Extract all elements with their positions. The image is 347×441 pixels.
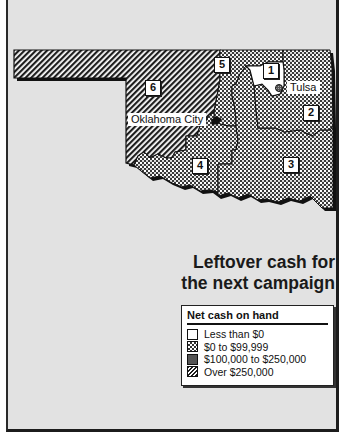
legend-item-100000-to-250000: $100,000 to $250,000 xyxy=(187,353,328,366)
legend-item-label: Over $250,000 xyxy=(204,366,273,378)
legend-item-label: $0 to $99,999 xyxy=(204,341,268,353)
map-title-line-1: Leftover cash for xyxy=(181,252,335,273)
hatch-swatch-icon xyxy=(187,366,198,377)
legend-title: Net cash on hand xyxy=(187,309,328,325)
legend-item-0-to-99999: $0 to $99,999 xyxy=(187,341,328,354)
map-title-line-2: the next campaign xyxy=(181,273,335,294)
tulsa-city-marker xyxy=(276,85,283,92)
district-label-4: 4 xyxy=(192,158,208,174)
white-swatch-icon xyxy=(187,329,198,340)
legend: Net cash on hand Less than $0 $0 to $99,… xyxy=(181,305,334,386)
city-label-oklahoma-city: Oklahoma City xyxy=(128,113,206,126)
checker-swatch-icon xyxy=(187,341,198,352)
legend-item-label: Less than $0 xyxy=(204,328,264,340)
dense-dot-swatch-icon xyxy=(187,354,198,365)
district-label-1: 1 xyxy=(263,63,279,79)
city-label-tulsa: Tulsa xyxy=(287,81,320,94)
district-label-3: 3 xyxy=(283,157,299,173)
map-title: Leftover cash for the next campaign xyxy=(181,252,335,294)
district-label-2: 2 xyxy=(303,105,319,121)
legend-item-over-250000: Over $250,000 xyxy=(187,366,328,379)
district-label-5: 5 xyxy=(214,57,230,73)
district-label-6: 6 xyxy=(145,80,161,96)
legend-item-less-than-0: Less than $0 xyxy=(187,328,328,341)
legend-item-label: $100,000 to $250,000 xyxy=(204,353,306,365)
